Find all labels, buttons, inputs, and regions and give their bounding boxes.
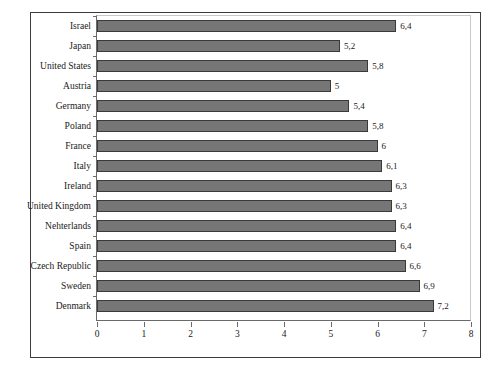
bar [97,200,392,212]
bars-layer: Israel6,4Japan5,2United States5,8Austria… [97,16,471,321]
bar-value-label: 5 [335,77,340,95]
x-axis-tick [97,322,98,327]
bar-row: United States5,8 [97,56,471,76]
x-axis-tick [424,322,425,327]
category-label: United Kingdom [0,196,91,216]
x-axis-tick [284,322,285,327]
x-axis-tick [378,322,379,327]
y-axis-tick [93,76,97,77]
y-axis-tick [93,296,97,297]
bar [97,40,340,52]
category-label: Denmark [0,296,91,316]
bar-row: Germany5,4 [97,96,471,116]
bar-value-label: 5,4 [353,97,364,115]
y-axis-tick [93,96,97,97]
x-axis-tick-label: 4 [282,329,287,339]
y-axis-tick [93,16,97,17]
bar-row: Poland5,8 [97,116,471,136]
bar-row: United Kingdom6,3 [97,196,471,216]
bar-value-label: 6,1 [386,157,397,175]
y-axis-tick [93,276,97,277]
category-label: Japan [0,36,91,56]
bar-value-label: 5,2 [344,37,355,55]
category-label: Austria [0,76,91,96]
y-axis-tick [93,256,97,257]
y-axis-tick [93,156,97,157]
bar-row: Israel6,4 [97,16,471,36]
bar-value-label: 5,8 [372,57,383,75]
bar [97,60,368,72]
bar-row: Spain6,4 [97,236,471,256]
bar-row: Italy6,1 [97,156,471,176]
bar-value-label: 6,9 [424,277,435,295]
x-axis-tick [191,322,192,327]
x-axis-tick-label: 7 [422,329,427,339]
bar-row: Ireland6,3 [97,176,471,196]
bar-value-label: 5,8 [372,117,383,135]
bar-value-label: 6 [382,137,387,155]
x-axis-tick-label: 2 [188,329,193,339]
category-label: Czech Republic [0,256,91,276]
x-axis-tick [331,322,332,327]
bar [97,100,349,112]
bar [97,220,396,232]
bar [97,180,392,192]
category-label: United States [0,56,91,76]
x-axis: 012345678 [97,322,471,362]
category-label: Sweden [0,276,91,296]
bar-row: Nehterlands6,4 [97,216,471,236]
category-label: Poland [0,116,91,136]
category-label: Germany [0,96,91,116]
bar-value-label: 6,4 [400,17,411,35]
x-axis-tick-label: 0 [95,329,100,339]
category-label: Ireland [0,176,91,196]
bar [97,240,396,252]
y-axis-tick [93,216,97,217]
bar [97,120,368,132]
bar-row: Czech Republic6,6 [97,256,471,276]
bar [97,280,420,292]
category-label: Spain [0,236,91,256]
y-axis-tick [93,196,97,197]
bar [97,80,331,92]
category-label: Israel [0,16,91,36]
y-axis-tick [93,116,97,117]
bar [97,300,434,312]
bar [97,140,378,152]
y-axis-tick [93,236,97,237]
bar-row: France6 [97,136,471,156]
bar-value-label: 6,6 [410,257,421,275]
bar-row: Denmark7,2 [97,296,471,316]
bar-value-label: 6,3 [396,197,407,215]
x-axis-tick-label: 3 [235,329,240,339]
y-axis-tick [93,136,97,137]
y-axis-tick [93,176,97,177]
x-axis-tick-label: 8 [469,329,474,339]
x-axis-tick [237,322,238,327]
bar-value-label: 7,2 [438,297,449,315]
bar-value-label: 6,4 [400,237,411,255]
bar-row: Austria5 [97,76,471,96]
bar-row: Sweden6,9 [97,276,471,296]
bar [97,160,382,172]
bar [97,260,406,272]
x-axis-tick [144,322,145,327]
bar [97,20,396,32]
x-axis-tick-label: 1 [141,329,146,339]
y-axis-tick [93,36,97,37]
x-axis-tick-label: 6 [375,329,380,339]
category-label: France [0,136,91,156]
category-label: Nehterlands [0,216,91,236]
x-axis-tick-label: 5 [328,329,333,339]
bar-value-label: 6,3 [396,177,407,195]
y-axis-tick [93,56,97,57]
x-axis-tick [471,322,472,327]
bar-chart: Israel6,4Japan5,2United States5,8Austria… [30,12,481,358]
category-label: Italy [0,156,91,176]
bar-row: Japan5,2 [97,36,471,56]
bar-value-label: 6,4 [400,217,411,235]
